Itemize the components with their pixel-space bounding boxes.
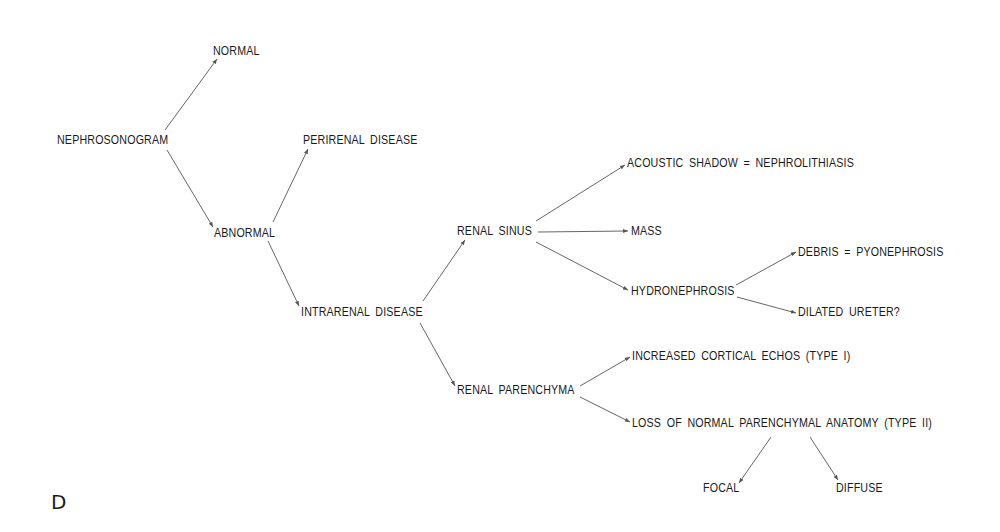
node-debris-pyonephrosis: DEBRIS = PYONEPHROSIS — [798, 245, 944, 259]
edge-renal-sinus-acoustic-shadow — [536, 165, 625, 221]
node-normal: NORMAL — [213, 44, 260, 58]
nephrosonogram-flowchart: NEPHROSONOGRAM NORMAL ABNORMAL PERIRENAL… — [0, 0, 1000, 532]
edge-parenchyma-increased-cortical — [580, 357, 630, 386]
node-diffuse: DIFFUSE — [836, 481, 883, 495]
edge-nephrosonogram-normal — [165, 59, 217, 130]
node-loss-of-normal-anatomy: LOSS OF NORMAL PARENCHYMAL ANATOMY (TYPE… — [632, 416, 932, 430]
edge-abnormal-intrarenal — [268, 241, 299, 306]
edge-layer — [0, 0, 1000, 532]
edge-hydronephrosis-dilated-ureter — [737, 297, 796, 313]
node-perirenal-disease: PERIRENAL DISEASE — [303, 133, 417, 147]
node-renal-parenchyma: RENAL PARENCHYMA — [457, 383, 575, 397]
node-increased-cortical-echos: INCREASED CORTICAL ECHOS (TYPE I) — [632, 349, 850, 363]
node-renal-sinus: RENAL SINUS — [457, 224, 532, 238]
edge-intrarenal-renal-sinus — [423, 240, 465, 301]
edge-loss-focal — [739, 437, 771, 483]
edge-loss-diffuse — [810, 437, 838, 480]
node-dilated-ureter: DILATED URETER? — [798, 305, 900, 319]
node-intrarenal-disease: INTRARENAL DISEASE — [301, 305, 423, 319]
edge-hydronephrosis-debris — [736, 252, 796, 285]
node-nephrosonogram: NEPHROSONOGRAM — [57, 133, 168, 147]
panel-label: D — [51, 490, 66, 514]
edge-intrarenal-renal-parenchyma — [420, 323, 455, 386]
edge-abnormal-perirenal — [273, 149, 308, 222]
node-focal: FOCAL — [703, 481, 739, 495]
edge-nephrosonogram-abnormal — [167, 150, 213, 227]
edge-renal-sinus-hydronephrosis — [536, 242, 628, 290]
node-mass: MASS — [631, 224, 662, 238]
edge-parenchyma-loss-of-normal — [580, 397, 630, 422]
edge-renal-sinus-mass — [538, 231, 628, 232]
node-acoustic-shadow: ACOUSTIC SHADOW = NEPHROLITHIASIS — [627, 156, 854, 170]
node-hydronephrosis: HYDRONEPHROSIS — [631, 284, 735, 298]
node-abnormal: ABNORMAL — [214, 226, 275, 240]
